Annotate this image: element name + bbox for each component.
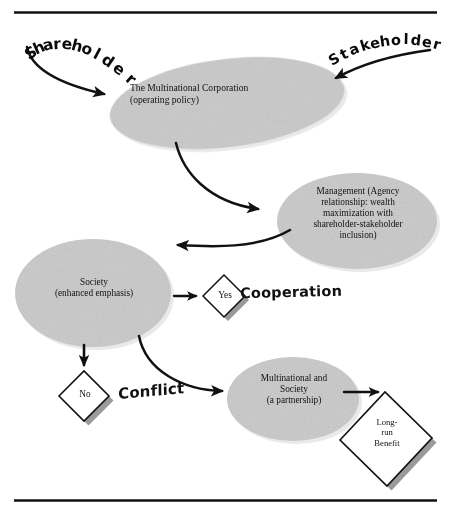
- diagram-canvas: The Multinational Corporation (operating…: [0, 0, 451, 515]
- stakeholder-label: Stakeholder: [0, 0, 451, 515]
